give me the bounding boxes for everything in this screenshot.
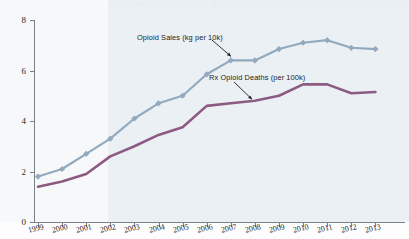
chart-figure: 0 2 4 6 8 1999 2000 2001 2002 2003 2004 …	[0, 0, 409, 239]
plot-area: 0 2 4 6 8 1999 2000 2001 2002 2003 2004 …	[0, 0, 409, 239]
line-rx-opioid-deaths	[38, 84, 375, 186]
data-point-opioid-sales	[324, 37, 330, 43]
data-point-opioid-sales	[372, 46, 378, 52]
data-point-opioid-sales	[300, 40, 306, 46]
annotation-rx-opioid-deaths: Rx Opioid Deaths (per 100k)	[209, 73, 305, 82]
annotation-arrows	[212, 40, 252, 99]
annotation-opioid-sales: Opioid Sales (kg per 10k)	[137, 33, 223, 42]
line-opioid-sales	[38, 40, 375, 176]
data-point-opioid-sales	[35, 173, 41, 179]
markers-opioid-sales	[35, 37, 379, 180]
data-point-opioid-sales	[348, 45, 354, 51]
